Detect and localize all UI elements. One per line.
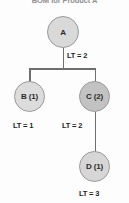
- lead-time-d: LT = 3: [79, 189, 99, 198]
- node-d-label: D (1): [86, 162, 103, 171]
- node-a-label: A: [60, 28, 66, 37]
- node-b: B (1): [14, 81, 45, 112]
- lead-time-b: LT = 1: [13, 121, 33, 130]
- lead-time-c: LT = 2: [62, 121, 82, 130]
- node-a: A: [47, 16, 79, 48]
- edge-a-to-bus: [63, 48, 65, 69]
- node-d: D (1): [79, 151, 110, 182]
- edge-c-to-d: [95, 112, 97, 152]
- node-b-label: B (1): [21, 92, 38, 101]
- node-c: C (2): [79, 81, 110, 112]
- lead-time-a: LT = 2: [67, 51, 87, 60]
- edge-bus-horizontal: [29, 68, 96, 70]
- bom-diagram: BOM for Product A A LT = 2 B (1) LT = 1 …: [0, 0, 129, 203]
- edge-bus-to-c: [95, 68, 97, 82]
- node-c-label: C (2): [86, 92, 103, 101]
- edge-bus-to-b: [29, 68, 31, 82]
- diagram-title: BOM for Product A: [0, 0, 129, 5]
